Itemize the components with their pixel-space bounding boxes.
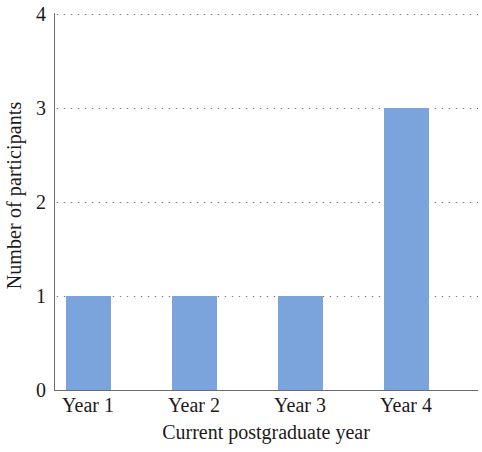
y-tick-label-2: 2 [0, 192, 46, 212]
bar-year-2 [172, 296, 217, 390]
y-axis-tick-labels: 01234 [0, 0, 46, 452]
y-tick-label-4: 4 [0, 4, 46, 24]
bar-year-1 [66, 296, 111, 390]
x-tick-label-year-1: Year 1 [35, 394, 141, 416]
x-tick-label-year-2: Year 2 [141, 394, 247, 416]
x-tick-label-year-3: Year 3 [247, 394, 353, 416]
x-axis-spine [54, 390, 478, 391]
x-axis-title: Current postgraduate year [54, 421, 478, 444]
y-tick-label-3: 3 [0, 98, 46, 118]
bar-series [54, 14, 478, 390]
y-tick-label-1: 1 [0, 286, 46, 306]
x-tick-label-year-4: Year 4 [353, 394, 459, 416]
bar-year-4 [384, 108, 429, 390]
x-axis-tick-labels: Year 1Year 2Year 3Year 4 [54, 394, 478, 420]
bar-chart-figure: Number of participants 01234 Year 1Year … [0, 0, 482, 452]
bar-year-3 [278, 296, 323, 390]
